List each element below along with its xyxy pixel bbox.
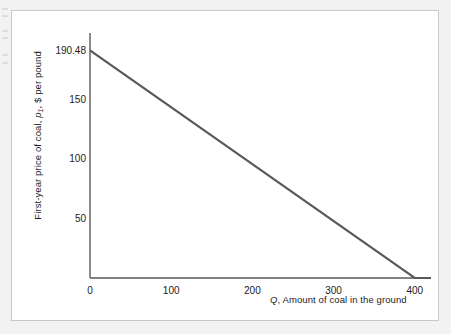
figure-panel: First-year price of coal, p1, $ per poun… — [11, 10, 439, 321]
x-axis-label: Q, Amount of coal in the ground — [270, 294, 407, 305]
x-axis-label-rest: , Amount of coal in the ground — [278, 294, 407, 305]
plot-svg — [12, 11, 440, 322]
scan-artifact-mark — [2, 37, 8, 39]
x-axis-label-variable: Q — [270, 294, 278, 305]
line-chart: First-year price of coal, p1, $ per poun… — [12, 11, 438, 320]
scan-artifact-mark — [2, 8, 8, 10]
scan-artifacts — [0, 6, 10, 76]
scan-artifact-mark — [2, 30, 8, 32]
scan-artifact-mark — [2, 15, 8, 17]
data-line-0 — [90, 50, 431, 278]
scan-artifact-mark — [2, 62, 8, 64]
scan-artifact-mark — [2, 54, 8, 56]
